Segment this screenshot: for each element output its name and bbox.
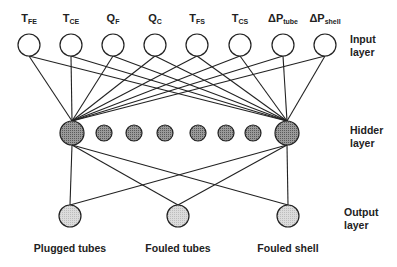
connection-line (72, 56, 325, 121)
input-label-main: T (63, 12, 70, 24)
input-label-main: Q (107, 12, 116, 24)
input-node-label: TCS (232, 12, 248, 25)
connection-line (72, 145, 178, 205)
input-node (229, 34, 251, 56)
connection-line (155, 56, 287, 121)
input-label-main: T (232, 12, 239, 24)
input-node-label: QF (107, 12, 120, 25)
hidden-layer-label-line1: Hidder (350, 124, 383, 137)
input-layer-label: Input layer (350, 33, 376, 59)
input-label-subscript: CE (70, 18, 80, 25)
output-layer-label: Output layer (344, 206, 378, 232)
output-layer-label-line2: layer (344, 219, 378, 232)
input-node (272, 34, 294, 56)
input-label-subscript: tube (283, 18, 298, 25)
input-layer-label-line1: Input (350, 33, 376, 46)
input-label-main: ΔP (268, 12, 283, 24)
connection-line (70, 145, 72, 205)
input-node (314, 34, 336, 56)
output-node-label: Fouled shell (257, 242, 318, 254)
hidden-node (126, 125, 142, 141)
output-nodes (59, 205, 299, 227)
hidden-node (245, 125, 261, 141)
input-label-subscript: CS (239, 18, 249, 25)
hidden-node (96, 125, 112, 141)
hidden-node (218, 125, 234, 141)
output-layer-label-line1: Output (344, 206, 378, 219)
input-node-label: TCE (63, 12, 79, 25)
input-label-subscript: FS (196, 18, 205, 25)
input-nodes (18, 34, 336, 56)
hidden-node (60, 121, 84, 145)
output-node (277, 205, 299, 227)
output-node (167, 205, 189, 227)
input-node-label: ΔPtube (268, 12, 298, 25)
hidden-nodes (60, 121, 299, 145)
connection-line (287, 145, 288, 205)
connection-line (178, 145, 287, 205)
hidden-node (275, 121, 299, 145)
hidden-node (190, 125, 206, 141)
input-node-label: TFS (189, 12, 205, 25)
output-node-label: Fouled tubes (145, 242, 210, 254)
connection-line (72, 56, 113, 121)
hidden-node (157, 125, 173, 141)
output-node (59, 205, 81, 227)
hidden-layer-label-line2: layer (350, 137, 383, 150)
input-label-subscript: FE (28, 18, 37, 25)
input-label-main: T (189, 12, 196, 24)
connection-line (72, 56, 155, 121)
input-node-label: QC (148, 12, 162, 25)
input-label-subscript: F (115, 18, 119, 25)
input-node-label: ΔPshell (309, 12, 340, 25)
connection-line (287, 56, 325, 121)
connection-line (72, 56, 240, 121)
hidden-layer-label: Hidder layer (350, 124, 383, 150)
input-label-main: Q (148, 12, 157, 24)
input-node-label: TFE (21, 12, 37, 25)
input-layer-label-line2: layer (350, 46, 376, 59)
input-node (102, 34, 124, 56)
input-label-subscript: C (157, 18, 162, 25)
connection-line (71, 56, 72, 121)
input-label-main: T (21, 12, 28, 24)
input-node (60, 34, 82, 56)
connection-line (197, 56, 287, 121)
connection-line (29, 56, 287, 121)
input-node (186, 34, 208, 56)
input-node (144, 34, 166, 56)
input-label-main: ΔP (309, 12, 324, 24)
input-label-subscript: shell (325, 18, 341, 25)
input-node (18, 34, 40, 56)
network-diagram (0, 0, 397, 267)
output-node-label: Plugged tubes (34, 242, 106, 254)
